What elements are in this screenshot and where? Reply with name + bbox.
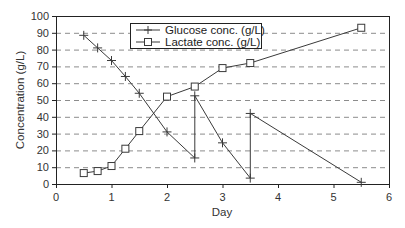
square-marker-icon (164, 93, 171, 100)
y-tick-label: 20 (37, 144, 49, 156)
plus-marker-icon (357, 178, 366, 187)
line-chart: 0102030405060708090100 0123456 Concentra… (0, 0, 405, 228)
square-marker-icon (122, 145, 129, 152)
square-marker-icon (136, 128, 143, 135)
plus-marker-icon (246, 174, 255, 183)
y-tick-label: 40 (37, 111, 49, 123)
y-axis-title: Concentration (g/L) (14, 51, 26, 150)
y-tick-label: 0 (43, 178, 49, 190)
square-marker-icon (247, 60, 254, 67)
series-glucose (79, 31, 366, 187)
square-marker-icon (191, 83, 198, 90)
legend: Glucose conc. (g/L) Lactate conc. (g/L) (131, 24, 265, 49)
square-marker-icon (358, 24, 365, 31)
y-tick-label: 50 (37, 94, 49, 106)
y-tick-label: 90 (37, 27, 49, 39)
square-marker-icon (108, 163, 115, 170)
y-tick-label: 10 (37, 161, 49, 173)
y-tick-label: 80 (37, 44, 49, 56)
y-tick-label: 70 (37, 60, 49, 72)
square-marker-icon (94, 168, 101, 175)
plus-marker-icon (246, 109, 255, 118)
gridlines (56, 33, 389, 167)
square-marker-icon (145, 39, 152, 46)
square-marker-icon (80, 170, 87, 177)
x-axis: 0123456 (53, 184, 392, 203)
x-tick-label: 6 (386, 191, 392, 203)
legend-label-glucose: Glucose conc. (g/L) (165, 24, 265, 36)
x-axis-title: Day (212, 206, 233, 218)
square-marker-icon (219, 65, 226, 72)
y-tick-label: 60 (37, 77, 49, 89)
x-tick-label: 1 (108, 191, 114, 203)
series-line (84, 35, 362, 182)
x-tick-label: 3 (219, 191, 225, 203)
x-tick-label: 2 (164, 191, 170, 203)
x-tick-label: 5 (330, 191, 336, 203)
y-tick-label: 100 (31, 10, 49, 22)
y-tick-label: 30 (37, 128, 49, 140)
x-tick-label: 0 (53, 191, 59, 203)
legend-label-lactate: Lactate conc. (g/L) (165, 36, 260, 48)
x-tick-label: 4 (275, 191, 281, 203)
plus-marker-icon (190, 91, 199, 100)
plus-marker-icon (218, 138, 227, 147)
y-axis: 0102030405060708090100 (31, 10, 56, 190)
